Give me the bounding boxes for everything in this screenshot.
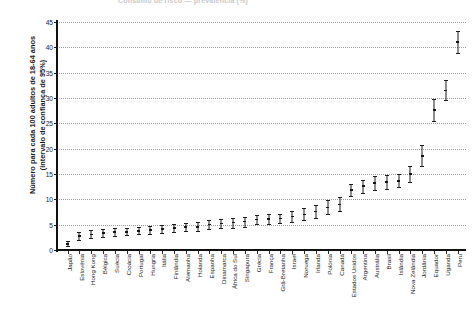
errorbar-cap-lower bbox=[408, 182, 412, 183]
errorbar-cap-upper bbox=[397, 174, 401, 175]
gridline bbox=[57, 199, 466, 200]
chart-figure: Consumo de risco — prevalência (%) Númer… bbox=[0, 0, 474, 314]
x-axis-line bbox=[56, 249, 466, 251]
errorbar-cap-lower bbox=[302, 220, 306, 221]
errorbar-cap-lower bbox=[420, 166, 424, 167]
point-estimate-marker bbox=[444, 90, 447, 92]
y-axis-tick-mark bbox=[54, 225, 57, 226]
point-estimate-marker bbox=[173, 227, 176, 229]
x-axis-category-label: Japão bbox=[67, 254, 73, 271]
errorbar-cap-lower bbox=[373, 190, 377, 191]
errorbar-cap-upper bbox=[148, 226, 152, 227]
errorbar-cap-upper bbox=[361, 180, 365, 181]
point-estimate-marker bbox=[232, 222, 235, 224]
x-axis-category-label: Israel bbox=[291, 254, 297, 269]
x-axis-category-label: Hong Kong bbox=[90, 254, 96, 285]
errorbar-cap-lower bbox=[101, 237, 105, 238]
errorbar-cap-lower bbox=[137, 234, 141, 235]
errorbar-cap-upper bbox=[184, 223, 188, 224]
x-axis-category-label: Islândia bbox=[398, 254, 404, 275]
point-estimate-marker bbox=[196, 226, 199, 228]
y-axis-tick-mark bbox=[54, 98, 57, 99]
errorbar-cap-lower bbox=[77, 240, 81, 241]
point-estimate-marker bbox=[102, 232, 105, 234]
errorbar-cap-upper bbox=[290, 211, 294, 212]
y-axis-tick-mark bbox=[54, 73, 57, 74]
errorbar-cap-upper bbox=[255, 215, 259, 216]
x-axis-category-label: Suécia bbox=[114, 254, 120, 273]
errorbar-cap-lower bbox=[385, 189, 389, 190]
x-axis-category-label: Estados Unidos bbox=[351, 254, 357, 297]
point-estimate-marker bbox=[303, 214, 306, 216]
x-axis-category-label: Alemanha bbox=[185, 254, 191, 282]
x-axis-category-label: Bélgica bbox=[102, 254, 108, 274]
errorbar-cap-upper bbox=[385, 175, 389, 176]
x-axis-category-label: Singapura bbox=[244, 254, 250, 282]
errorbar-cap-upper bbox=[349, 184, 353, 185]
errorbar-cap-lower bbox=[432, 121, 436, 122]
y-axis-tick-mark bbox=[54, 174, 57, 175]
errorbar-cap-upper bbox=[125, 228, 129, 229]
x-axis-category-label: Hungria bbox=[150, 254, 156, 276]
errorbar-cap-upper bbox=[219, 219, 223, 220]
errorbar-cap-lower bbox=[172, 232, 176, 233]
y-axis-tick-mark bbox=[54, 149, 57, 150]
errorbar-cap-lower bbox=[278, 223, 282, 224]
errorbar-cap-lower bbox=[125, 235, 129, 236]
x-axis-category-label: Jordânia bbox=[421, 254, 427, 278]
y-axis-tick-label: 20 bbox=[46, 145, 53, 152]
x-axis-category-label: Uganda bbox=[445, 254, 451, 276]
errorbar-cap-upper bbox=[231, 218, 235, 219]
point-estimate-marker bbox=[267, 218, 270, 220]
y-axis-title-line1: Número para cada 100 adultos de 18-64 an… bbox=[28, 0, 38, 230]
point-estimate-marker bbox=[350, 189, 353, 191]
point-estimate-marker bbox=[397, 180, 400, 182]
x-axis-category-label: Itália bbox=[161, 254, 167, 267]
point-estimate-marker bbox=[255, 219, 258, 221]
errorbar-cap-lower bbox=[290, 222, 294, 223]
errorbar-cap-lower bbox=[255, 224, 259, 225]
y-axis-tick-label: 25 bbox=[46, 120, 53, 127]
x-axis-category-label: Eslovénia bbox=[79, 254, 85, 281]
point-estimate-marker bbox=[456, 41, 459, 43]
errorbar-cap-upper bbox=[196, 222, 200, 223]
y-axis-tick-label: 40 bbox=[46, 44, 53, 51]
point-estimate-marker bbox=[90, 234, 93, 236]
x-axis-category-label: África do Sul bbox=[232, 254, 238, 289]
gridline bbox=[57, 73, 466, 74]
errorbar-cap-upper bbox=[408, 166, 412, 167]
x-axis-category-label: Portugal bbox=[138, 254, 144, 277]
point-estimate-marker bbox=[220, 223, 223, 225]
errorbar-cap-lower bbox=[361, 193, 365, 194]
errorbar-cap-upper bbox=[89, 230, 93, 231]
errorbar-cap-lower bbox=[326, 214, 330, 215]
point-estimate-marker bbox=[208, 224, 211, 226]
chart-title-cutoff: Consumo de risco — prevalência (%) bbox=[118, 0, 358, 6]
errorbar-cap-lower bbox=[314, 218, 318, 219]
point-estimate-marker bbox=[149, 229, 152, 231]
errorbar-cap-upper bbox=[373, 176, 377, 177]
gridline bbox=[57, 225, 466, 226]
errorbar-cap-lower bbox=[444, 100, 448, 101]
gridline bbox=[57, 123, 466, 124]
errorbar-cap-lower bbox=[243, 227, 247, 228]
x-axis-category-label: Irlanda bbox=[315, 254, 321, 273]
x-axis-category-label: Equador bbox=[433, 254, 439, 277]
y-axis-tick-label: 5 bbox=[49, 221, 53, 228]
errorbar-cap-upper bbox=[314, 205, 318, 206]
y-axis-tick-mark bbox=[54, 22, 57, 23]
y-axis-tick-label: 45 bbox=[46, 19, 53, 26]
point-estimate-marker bbox=[279, 218, 282, 220]
point-estimate-marker bbox=[338, 204, 341, 206]
errorbar-cap-lower bbox=[456, 53, 460, 54]
y-axis-tick-label: 35 bbox=[46, 69, 53, 76]
point-estimate-marker bbox=[291, 216, 294, 218]
y-axis-tick-mark bbox=[54, 123, 57, 124]
point-estimate-marker bbox=[421, 155, 424, 157]
errorbar-cap-upper bbox=[267, 214, 271, 215]
y-axis-tick-label: 10 bbox=[46, 196, 53, 203]
y-axis-tick-label: 30 bbox=[46, 95, 53, 102]
x-axis-category-label: Canadá bbox=[339, 254, 345, 276]
errorbar-cap-lower bbox=[338, 211, 342, 212]
errorbar-cap-upper bbox=[137, 227, 141, 228]
